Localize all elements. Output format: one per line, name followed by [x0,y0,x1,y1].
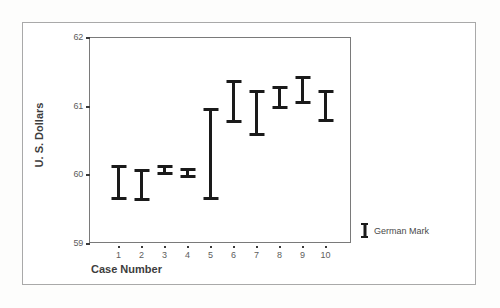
error-bar-cap-lower [157,172,172,175]
error-bar-stem [232,80,235,123]
error-bar-case-5 [203,108,218,201]
x-tick-mark [233,246,235,248]
chart-legend: German Mark [361,223,429,238]
x-tick-label: 3 [162,250,167,260]
error-bar-cap-upper [157,165,172,168]
error-bar-cap-lower [226,120,241,123]
x-tick-label: 1 [116,250,121,260]
error-bar-stem [255,90,258,136]
y-axis-line [89,37,90,243]
plot-border-top [89,37,351,38]
y-tick-mark [86,243,90,245]
error-bar-cap-upper [249,90,264,93]
x-tick-label: 5 [208,250,213,260]
y-tick-label: 60 [73,169,83,179]
x-tick-mark [118,246,120,248]
error-bar-cap-upper [318,90,333,93]
chart-page: 59606162 12345678910 U. S. Dollars Case … [0,0,500,308]
error-bar-case-4 [180,168,195,178]
error-bar-case-6 [226,80,241,123]
plot-border-right [350,37,351,243]
x-tick-mark [256,246,258,248]
error-bar-stem [140,169,143,201]
x-tick-label: 10 [320,250,330,260]
y-tick-mark [86,174,90,176]
x-tick-label: 2 [139,250,144,260]
x-tick-label: 9 [300,250,305,260]
x-tick-mark [164,246,166,248]
x-tick-mark [325,246,327,248]
legend-entry-label: German Mark [374,226,429,236]
error-bar-case-8 [272,86,287,109]
error-bar-cap-lower [249,133,264,136]
error-bar-case-2 [134,169,149,201]
error-bar-case-10 [318,90,333,122]
error-bar-cap-upper [295,76,310,79]
x-tick-label: 8 [277,250,282,260]
x-tick-mark [187,246,189,248]
error-bar-cap-upper [272,86,287,89]
x-tick-label: 7 [254,250,259,260]
error-bar-cap-lower [134,198,149,201]
error-bar-cap-lower [180,175,195,178]
x-tick-mark [141,246,143,248]
x-tick-mark [210,246,212,248]
chart-outer-frame: 59606162 12345678910 U. S. Dollars Case … [22,22,476,285]
x-axis-title: Case Number [91,263,162,275]
y-tick-label: 59 [73,238,83,248]
x-tick-label: 4 [185,250,190,260]
error-bar-stem [324,90,327,122]
error-bar-cap-upper [203,108,218,111]
x-axis-line [89,242,351,243]
error-bar-stem [117,165,120,201]
error-bar-cap-lower [272,106,287,109]
error-bar-cap-upper [134,169,149,172]
error-bar-case-7 [249,90,264,136]
error-bar-case-3 [157,165,172,175]
error-bar-cap-upper [180,168,195,171]
error-bar-case-9 [295,76,310,104]
plot-area: 59606162 12345678910 [89,37,351,243]
y-tick-label: 62 [73,32,83,42]
x-tick-label: 6 [231,250,236,260]
error-bar-cap-lower [318,119,333,122]
y-tick-label: 61 [73,101,83,111]
chart-canvas: 59606162 12345678910 U. S. Dollars Case … [23,23,477,286]
y-tick-mark [86,37,90,39]
error-bar-cap-upper [226,80,241,83]
error-bar-case-1 [111,165,126,201]
y-tick-mark [86,106,90,108]
error-bar-icon [361,223,368,238]
x-tick-mark [279,246,281,248]
error-bar-cap-lower [295,101,310,104]
error-bar-stem [209,108,212,201]
x-tick-mark [302,246,304,248]
error-bar-cap-lower [111,197,126,200]
error-bar-cap-upper [111,165,126,168]
error-bar-stem [301,76,304,104]
error-bar-cap-lower [203,197,218,200]
y-axis-title: U. S. Dollars [33,103,45,168]
